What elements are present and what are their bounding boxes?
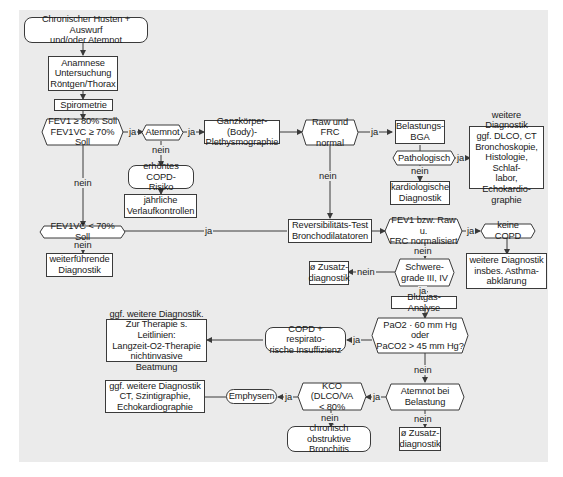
anamnese-box: Anamnese Untersuchung Röntgen/Thorax [48,56,118,91]
edge-label-ja: ja [370,127,379,137]
edge-label-nein: nein [73,178,93,188]
edge-label-ja: ja [372,392,381,402]
raw-frc-decision-text: Raw und FRC normal [304,117,356,149]
spirometrie-box: Spirometrie [54,99,113,111]
edge-label-ja: ja [352,335,361,345]
schweregrade-text: Schwere- grade III, IV [401,262,448,283]
atemnot-belastung-text: Atemnot bei Belastung [401,386,450,407]
zusatz-diagnostik-2-box: ø Zusatz- diagnostik [399,427,441,451]
edge-label-nein: nein [151,145,171,155]
edge-label-ja: ja [128,127,137,137]
schweregrade-decision: Schwere- grade III, IV [395,259,454,286]
kardiologische-box: kardiologische Diagnostik [390,181,450,205]
blutgas-analyse-box: Blutgas-Analyse [391,296,457,309]
ggf-ct-box: ggf. weitere Diagnostik CT, Szintigraphi… [105,380,205,413]
pao2-decision: PaO2 · 60 mm Hg oder PaCO2 > 45 mm Hg? [372,318,468,353]
kco-decision: KCO (DLCO/VA < 80% [298,383,366,410]
erhoehtes-risiko-node: erhöhtes COPD- Risiko [128,165,194,189]
edge-label-ja: ja [187,127,196,137]
edge-label-ja: ja [204,226,213,236]
raw-frc-decision: Raw und FRC normal [302,120,358,145]
edge-label-ja: ja [418,286,427,296]
fev1-normalisiert-decision: FEV1 bzw. Raw u. FRC normalisiert [385,219,462,243]
pao2-text: PaO2 · 60 mm Hg oder PaCO2 > 45 mm Hg? [374,320,466,352]
edge-label-nein: nein [413,414,433,424]
edge-label-ja: ja [466,226,475,236]
belastungs-bga-box: Belastungs- BGA [395,120,445,144]
start-node: Chronischer Husten + Auswurf und/oder At… [24,17,148,43]
edge-label-nein: nein [413,246,433,256]
ganzkoerper-box: Ganzkörper-(Body)- Plethysmographie [204,120,280,144]
atemnot-belastung-decision: Atemnot bei Belastung [386,384,464,410]
reversibilitaet-box: Reversibilitäts-Test Bronchodilatatoren [288,219,372,243]
weiterfuehrende-box: weiterführende Diagnostik [46,253,113,277]
atemnot-decision-text: Atemnot [146,127,180,138]
pathologisch-decision: Pathologisch [393,151,455,165]
edge-label-nein: nein [356,267,376,277]
copd-insuffizienz-node: COPD + respirato- rische Insuffizienz [265,327,346,352]
edge-label-nein: nein [410,166,430,176]
weitere-diagnostik-asthma-box: weitere Diagnostik insbes. Asthma- abklä… [466,253,547,289]
edge-label-nein: nein [413,365,433,375]
edge-label-nein: nein [320,413,340,423]
edge-label-ja: ja [456,153,465,163]
ggf-therapie-box: ggf. weitere Diagnostik. Zur Therapie s.… [106,319,207,362]
emphysem-node: Emphysem [226,389,277,404]
jaehrliche-kontrollen-box: jährliche Verlaufkontrollen [124,194,197,218]
edge-label-ja: ja [284,392,293,402]
fev1vc-lt70-decision: FEV1VC < 70% Soll [40,226,125,238]
chronisch-bronchitis-node: chronisch obstruktive Bronchitis [287,426,371,452]
fev1-normalisiert-text: FEV1 bzw. Raw u. FRC normalisiert [387,215,460,247]
zusatz-diagnostik-1-box: ø Zusatz- diagnostik [309,261,349,285]
keine-copd-text: keine COPD [483,220,533,241]
fev1-decision-text: FEV1 ≥ 80% Soll FEV1VC ≥ 70% Soll [44,116,121,148]
fev1vc-lt70-text: FEV1VC < 70% Soll [42,221,123,242]
weitere-diagnostik-box: weitere Diagnostik ggf. DLCO, CT Broncho… [469,126,544,189]
edge-label-nein: nein [318,171,338,181]
kco-text: KCO (DLCO/VA < 80% [300,381,364,413]
pathologisch-decision-text: Pathologisch [398,153,450,164]
keine-copd-decision: keine COPD [481,224,535,238]
fev1-decision: FEV1 ≥ 80% Soll FEV1VC ≥ 70% Soll [42,119,123,145]
atemnot-decision: Atemnot [142,125,183,140]
